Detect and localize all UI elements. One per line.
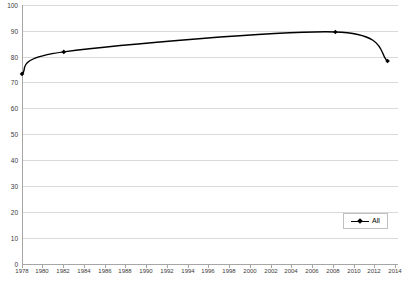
legend-line-marker-icon — [351, 217, 369, 225]
line-chart: 100 90 80 70 60 50 40 30 20 10 0 1978 19… — [0, 0, 407, 282]
series-all — [0, 0, 407, 282]
legend-entry-all[interactable]: All — [344, 214, 387, 228]
data-point-marker — [61, 50, 66, 55]
legend-label: All — [372, 217, 380, 225]
data-point-marker — [333, 30, 338, 35]
chart-legend[interactable]: All — [343, 213, 388, 229]
